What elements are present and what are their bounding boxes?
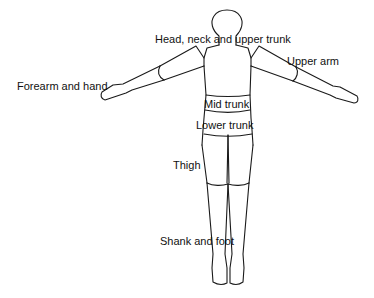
left-thigh-outline (202, 135, 229, 183)
label-forearm-hand: Forearm and hand (17, 81, 108, 92)
body-segment-diagram: Head, neck and upper trunk Upper arm For… (0, 0, 374, 298)
right-knee-line (228, 183, 249, 185)
torso-side-right (250, 66, 253, 145)
label-head-neck-upper-trunk: Head, neck and upper trunk (155, 34, 291, 45)
left-upper-arm-outline (160, 46, 204, 80)
label-shank-foot: Shank and foot (160, 236, 234, 247)
mid-lower-trunk-divider (205, 110, 250, 112)
upper-trunk-outline (204, 45, 251, 66)
right-forearm-hand-outline (293, 67, 358, 103)
right-elbow-line (293, 67, 297, 81)
left-elbow-line (159, 66, 164, 80)
label-lower-trunk: Lower trunk (196, 120, 253, 131)
left-forearm-hand-outline (101, 66, 164, 100)
label-upper-arm: Upper arm (287, 56, 339, 67)
label-mid-trunk: Mid trunk (204, 99, 249, 110)
right-thigh-outline (227, 135, 253, 183)
left-knee-line (207, 183, 228, 185)
right-shank-foot-outline (228, 183, 249, 284)
upper-mid-trunk-divider (206, 95, 250, 97)
left-shank-foot-outline (207, 183, 228, 284)
label-thigh: Thigh (173, 160, 201, 171)
